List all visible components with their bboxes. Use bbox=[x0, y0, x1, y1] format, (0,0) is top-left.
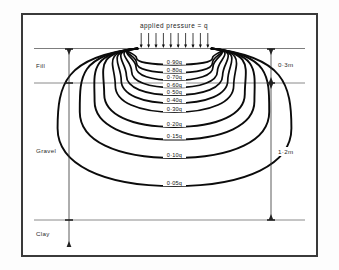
load-arrow-head bbox=[206, 45, 209, 48]
contour-label: 0·10q bbox=[167, 152, 182, 158]
load-arrow-head bbox=[155, 45, 158, 48]
contour-label: 0·05q bbox=[167, 180, 182, 186]
applied-load-arrows bbox=[140, 33, 210, 48]
contour-label: 0·50q bbox=[167, 89, 182, 95]
right-arrowhead-fill-top bbox=[269, 49, 274, 55]
load-arrow-head bbox=[147, 45, 150, 48]
load-arrow-head bbox=[184, 45, 187, 48]
diagram-canvas: applied pressure = q 0·90q0·80q0·70q0·60… bbox=[0, 0, 339, 270]
soil-label-clay: Clay bbox=[36, 230, 50, 237]
load-arrow-head bbox=[199, 45, 202, 48]
contour-label: 0·90q bbox=[167, 59, 182, 65]
soil-layer-labels: Fill Gravel Clay bbox=[36, 62, 56, 237]
contour-label: 0·40q bbox=[167, 97, 182, 103]
load-arrow-head bbox=[169, 45, 172, 48]
left-arrowhead-down bbox=[67, 241, 72, 247]
left-dimension-ticks bbox=[65, 49, 73, 248]
soil-label-fill: Fill bbox=[36, 62, 45, 69]
contour-label: 0·60q bbox=[167, 82, 182, 88]
load-arrow-head bbox=[177, 45, 180, 48]
contour-label: 0·70q bbox=[167, 74, 182, 80]
right-dimension-annotations: 0·3m 1·2m bbox=[267, 49, 299, 221]
load-arrow-head bbox=[192, 45, 195, 48]
dimension-label-fill-depth: 0·3m bbox=[278, 61, 294, 68]
left-arrowhead-up bbox=[67, 49, 72, 55]
load-arrow-head bbox=[140, 45, 143, 48]
contour-labels: 0·90q0·80q0·70q0·60q0·50q0·40q0·30q0·20q… bbox=[163, 58, 186, 186]
right-arrowhead-gravel-bottom bbox=[269, 214, 274, 220]
applied-pressure-label: applied pressure = q bbox=[140, 22, 208, 30]
contour-label: 0·15q bbox=[167, 133, 182, 139]
contour-label: 0·80q bbox=[167, 67, 182, 73]
soil-label-gravel: Gravel bbox=[36, 147, 56, 154]
load-arrow-head bbox=[162, 45, 165, 48]
contour-label: 0·20q bbox=[167, 121, 182, 127]
pressure-bulb-figure: applied pressure = q 0·90q0·80q0·70q0·60… bbox=[0, 0, 339, 270]
right-arrowhead-fill-bottom bbox=[269, 77, 274, 83]
dimension-label-gravel-depth: 1·2m bbox=[278, 148, 294, 155]
contour-label: 0·30q bbox=[167, 106, 182, 112]
